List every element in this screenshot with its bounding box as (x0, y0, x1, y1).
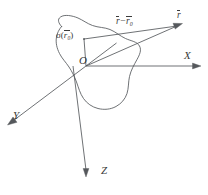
vector-diagram-figure: X Y Z O σ(r0) r−r0 r (0, 0, 208, 195)
difference-second-vector: r0 (126, 17, 133, 28)
x-axis-arrowhead (193, 63, 202, 69)
field-vector-r: r (177, 11, 181, 21)
z-axis-arrowhead (83, 169, 89, 178)
field-point-vector-label: r (177, 11, 181, 21)
z-axis-line (73, 66, 86, 170)
source-density-label: σ(r0) (56, 31, 73, 41)
source-point-marker (83, 38, 85, 40)
difference-second-subscript: 0 (130, 21, 133, 27)
y-axis-line (14, 66, 87, 121)
overbar (116, 16, 119, 17)
origin-label: O (79, 55, 87, 66)
sigma-close-paren: ) (70, 30, 73, 40)
difference-first-vector: r (116, 17, 120, 27)
separation-vector-label: r−r0 (116, 17, 133, 28)
sigma-vector-subscript: 0 (67, 35, 70, 41)
y-axis-label: Y (13, 110, 19, 121)
overbar (177, 10, 180, 11)
field-vector-symbol: r (177, 10, 181, 20)
z-axis-label: Z (101, 165, 107, 176)
overbar (64, 30, 70, 31)
difference-first-symbol: r (116, 16, 120, 26)
x-axis-label: X (184, 50, 191, 61)
overbar (126, 16, 132, 17)
sigma-vector-r0: r0 (64, 31, 70, 41)
sigma-open-paren: σ( (56, 30, 64, 40)
